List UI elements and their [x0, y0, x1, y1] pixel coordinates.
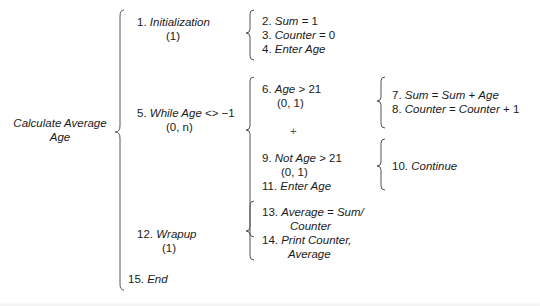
step-label: End	[147, 273, 167, 285]
bracket-while	[246, 77, 254, 237]
step-label: While Age	[150, 107, 202, 119]
step-num: 10.	[392, 160, 408, 172]
operand: Counter	[459, 103, 500, 115]
step-num: 14.	[262, 234, 278, 246]
step-label: Wrapup	[156, 228, 196, 240]
step-15-end: 15. End	[128, 272, 168, 286]
step-9: 9. Not Age > 21	[262, 151, 342, 165]
step-11: 11. Enter Age	[262, 179, 331, 193]
plus-sign: +	[290, 124, 297, 138]
operator: +	[468, 89, 475, 101]
step-7: 7. Sum = Sum + Age	[392, 88, 499, 102]
operand: Sum	[442, 89, 466, 101]
step-num: 1.	[137, 16, 147, 28]
bracket-true	[377, 77, 385, 128]
step-num: 3.	[262, 29, 272, 41]
bracket-main	[115, 10, 124, 290]
root-label: Calculate Average Age	[4, 116, 116, 144]
step-2: 2. Sum = 1	[262, 14, 318, 28]
step-1-initialization: 1. Initialization	[137, 15, 210, 29]
step-num: 13.	[262, 206, 278, 218]
step-num: 9.	[262, 152, 272, 164]
step-3: 3. Counter = 0	[262, 28, 335, 42]
step-6-mult: (0, 1)	[277, 96, 304, 110]
step-num: 7.	[392, 89, 402, 101]
step-num: 6.	[262, 83, 272, 95]
step-lhs: Age	[275, 83, 295, 95]
operand: Counter	[405, 103, 446, 115]
step-text: Enter Age	[275, 43, 326, 55]
step-num: 12.	[137, 228, 153, 240]
step-rhs: > 21	[319, 152, 342, 164]
bracket-wrapup	[246, 201, 254, 260]
root-line1: Calculate Average	[4, 116, 116, 130]
step-op: <> −1	[205, 107, 235, 119]
root-line2: Age	[4, 130, 116, 144]
step-8: 8. Counter = Counter + 1	[392, 102, 519, 116]
step-5-mult: (0, n)	[166, 120, 193, 134]
step-rhs: = 1	[302, 15, 318, 27]
step-num: 11.	[262, 180, 277, 192]
step-14-cont: Average	[288, 247, 331, 261]
step-num: 8.	[392, 103, 402, 115]
step-lhs: Counter	[275, 29, 316, 41]
step-9-mult: (0, 1)	[281, 165, 308, 179]
bracket-false	[377, 139, 385, 190]
step-text: Continue	[411, 160, 457, 172]
step-14: 14. Print Counter,	[262, 233, 352, 247]
step-line1: Average = Sum/	[281, 206, 364, 218]
step-rhs: = 0	[319, 29, 335, 41]
step-lhs: Sum	[275, 15, 299, 27]
step-12-wrapup: 12. Wrapup	[137, 227, 196, 241]
bracket-init	[246, 10, 254, 60]
operand: Age	[478, 89, 498, 101]
step-num: 2.	[262, 15, 272, 27]
step-num: 4.	[262, 43, 272, 55]
operator: =	[432, 89, 439, 101]
operand: Sum	[405, 89, 429, 101]
step-label: Initialization	[150, 16, 210, 28]
step-rhs: > 21	[298, 83, 321, 95]
step-num: 15.	[128, 273, 144, 285]
step-13: 13. Average = Sum/	[262, 205, 364, 219]
step-line1: Print Counter,	[281, 234, 351, 246]
step-12-mult: (1)	[162, 241, 176, 255]
step-text: Enter Age	[280, 180, 331, 192]
step-lhs: Not Age	[275, 152, 316, 164]
step-5-while: 5. While Age <> −1	[137, 106, 235, 120]
step-4: 4. Enter Age	[262, 42, 326, 56]
step-13-cont: Counter	[290, 219, 331, 233]
operator: + 1	[503, 103, 519, 115]
step-6: 6. Age > 21	[262, 82, 321, 96]
operator: =	[449, 103, 456, 115]
step-num: 5.	[137, 107, 147, 119]
step-1-mult: (1)	[166, 29, 180, 43]
cut-off-caption	[0, 302, 540, 306]
step-10: 10. Continue	[392, 159, 457, 173]
